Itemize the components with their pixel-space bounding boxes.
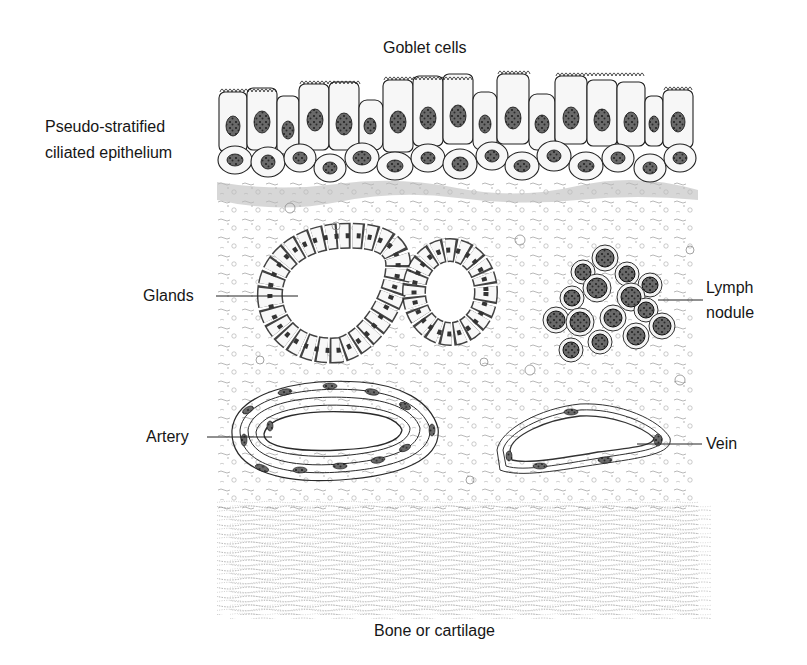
label-glands: Glands — [143, 286, 194, 306]
label-goblet-cells: Goblet cells — [383, 38, 467, 58]
bone-or-cartilage-layer — [217, 500, 711, 619]
label-epithelium-line1: Pseudo-stratified — [45, 117, 165, 137]
label-artery: Artery — [146, 427, 189, 447]
label-lymph-line1: Lymph — [706, 278, 753, 298]
epithelium-layer — [218, 71, 696, 182]
label-bone-or-cartilage: Bone or cartilage — [374, 621, 495, 641]
label-lymph-line2: nodule — [706, 303, 754, 323]
label-epithelium-line2: ciliated epithelium — [45, 143, 172, 163]
gland-right — [414, 250, 486, 334]
label-vein: Vein — [706, 434, 737, 454]
histology-illustration — [0, 0, 807, 665]
